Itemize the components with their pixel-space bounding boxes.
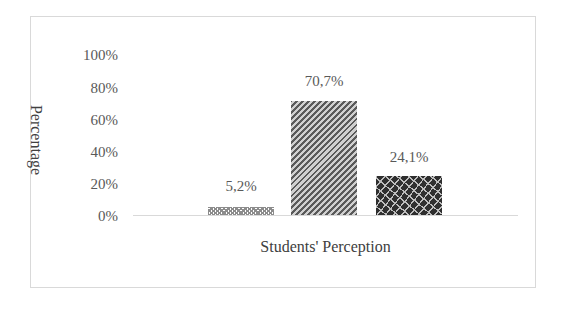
bar-series-3	[376, 176, 442, 215]
data-label-series-2: 70,7%	[291, 73, 357, 89]
x-axis-line	[133, 215, 518, 216]
data-label-series-1: 5,2%	[208, 178, 274, 194]
bar-series-1	[208, 207, 274, 215]
y-axis-title: Percentage	[27, 105, 45, 175]
y-tick-40: 40%	[91, 144, 119, 160]
y-tick-20: 20%	[91, 176, 119, 192]
bar-series-2	[291, 101, 357, 215]
y-tick-0: 0%	[98, 208, 118, 224]
y-axis-ticks: 100% 80% 60% 40% 20% 0%	[60, 0, 118, 310]
y-tick-60: 60%	[91, 112, 119, 128]
x-axis-category-label: Students' Perception	[133, 238, 518, 256]
y-tick-100: 100%	[83, 47, 118, 63]
data-label-series-3: 24,1%	[376, 149, 442, 165]
y-tick-80: 80%	[91, 80, 119, 96]
